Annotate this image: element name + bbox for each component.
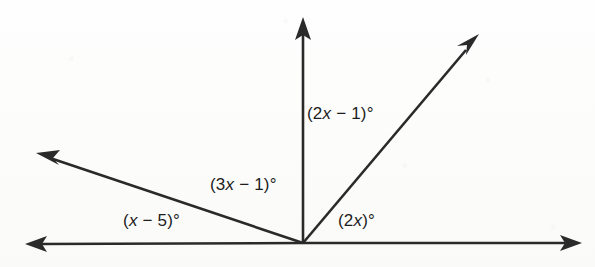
label-left-angle-suffix: − 5)°	[138, 211, 181, 230]
label-middle-angle-suffix: − 1)°	[234, 175, 277, 194]
label-upper-right-angle-variable: x	[323, 104, 332, 123]
arrowhead-upper-left	[36, 150, 60, 165]
label-right-angle-variable: x	[354, 211, 363, 230]
ray-vertical	[295, 17, 311, 243]
label-middle-angle-variable: x	[226, 175, 235, 194]
arrowhead-upper-right	[457, 34, 479, 55]
rays-canvas	[0, 0, 595, 267]
label-upper-right-angle: (2x − 1)°	[307, 104, 374, 124]
ray-left-horizontal	[25, 236, 303, 252]
label-middle-angle-prefix: (3	[210, 175, 226, 194]
label-upper-right-angle-prefix: (2	[307, 104, 323, 123]
angle-diagram: (2x − 1)° (3x − 1)° (x − 5)° (2x)°	[0, 0, 595, 267]
label-right-angle-suffix: )°	[362, 211, 375, 230]
label-left-angle-variable: x	[129, 211, 138, 230]
label-right-angle-prefix: (2	[338, 211, 354, 230]
label-right-angle: (2x)°	[338, 211, 375, 231]
label-upper-right-angle-suffix: − 1)°	[331, 104, 374, 123]
label-left-angle: (x − 5)°	[123, 211, 180, 231]
ray-right-horizontal	[303, 235, 582, 251]
ray-upper-right	[303, 34, 479, 243]
label-middle-angle: (3x − 1)°	[210, 175, 277, 195]
